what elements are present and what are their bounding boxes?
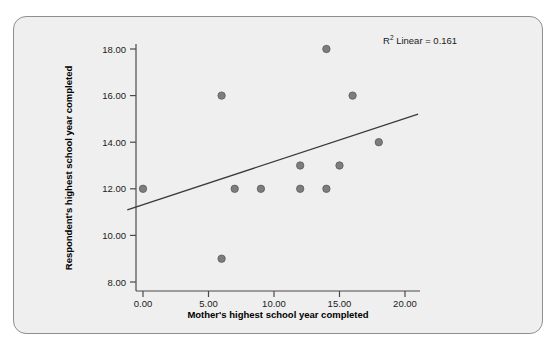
scatter-points-group xyxy=(139,45,382,262)
x-axis-title: Mother's highest school year completed xyxy=(187,309,368,320)
y-tick-label: 8.00 xyxy=(108,277,127,288)
plot-stage: 8.0010.0012.0014.0016.0018.00 0.005.0010… xyxy=(0,0,558,350)
scatter-point xyxy=(218,92,225,99)
y-axis-title: Respondent's highest school year complet… xyxy=(63,66,74,271)
scatter-point xyxy=(218,255,225,262)
scatter-point xyxy=(323,185,330,192)
x-tick-label: 5.00 xyxy=(199,298,218,309)
scatter-plot-svg: 8.0010.0012.0014.0016.0018.00 0.005.0010… xyxy=(0,0,558,350)
scatter-point xyxy=(231,185,238,192)
y-tick-label: 18.00 xyxy=(102,44,126,55)
scatter-point xyxy=(336,162,343,169)
x-tick-label: 10.00 xyxy=(262,298,286,309)
figure-root: 8.0010.0012.0014.0016.0018.00 0.005.0010… xyxy=(0,0,558,350)
r-squared-annotation: R2 Linear = 0.161 xyxy=(383,34,457,46)
scatter-point xyxy=(349,92,356,99)
r-squared-label: R2 Linear = 0.161 xyxy=(383,34,457,46)
x-tick-label: 0.00 xyxy=(134,298,153,309)
x-tick-label: 15.00 xyxy=(328,298,352,309)
scatter-point xyxy=(257,185,264,192)
y-tick-label: 16.00 xyxy=(102,90,126,101)
axes-group xyxy=(136,44,420,291)
scatter-point xyxy=(323,45,330,52)
y-tick-label: 12.00 xyxy=(102,183,126,194)
regression-line-group xyxy=(127,114,418,210)
r-squared-suffix: Linear = 0.161 xyxy=(394,35,458,46)
scatter-point xyxy=(139,185,146,192)
y-axis-ticks: 8.0010.0012.0014.0016.0018.00 xyxy=(102,44,136,288)
y-tick-label: 10.00 xyxy=(102,230,126,241)
scatter-point xyxy=(297,185,304,192)
linear-fit-line xyxy=(127,114,418,210)
x-tick-label: 20.00 xyxy=(393,298,417,309)
y-tick-label: 14.00 xyxy=(102,137,126,148)
scatter-point xyxy=(297,162,304,169)
x-axis-ticks: 0.005.0010.0015.0020.00 xyxy=(134,291,417,309)
scatter-point xyxy=(375,139,382,146)
